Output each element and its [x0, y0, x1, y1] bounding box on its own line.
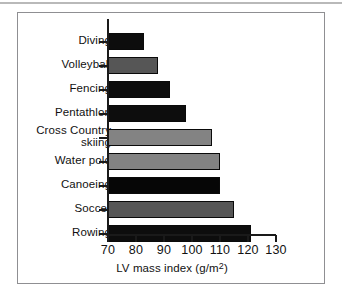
x-tick-label-70: 70 — [101, 243, 115, 257]
bar-pentathlon — [108, 105, 186, 122]
x-tick-label-90: 90 — [157, 243, 171, 257]
bar-water-polo — [108, 153, 220, 170]
category-tick-dash-water-polo — [99, 161, 107, 163]
chart-figure-frame: Diving Volleyball Fencing Pentathlon Cro… — [17, 12, 325, 284]
x-tick-mark — [247, 235, 249, 242]
x-tick-label-120: 120 — [237, 243, 258, 257]
top-divider-rule — [0, 2, 342, 4]
category-tick-dash-canoeing — [99, 185, 107, 187]
x-tick-mark — [135, 235, 137, 242]
x-tick-mark — [275, 235, 277, 242]
x-tick-mark — [107, 235, 109, 242]
x-tick-label-100: 100 — [181, 243, 202, 257]
x-axis-title-close: ) — [224, 262, 228, 274]
x-axis-title-main: LV mass index (g/m — [116, 262, 219, 274]
x-tick-label-130: 130 — [265, 243, 286, 257]
bar-soccer — [108, 201, 234, 218]
category-tick-dash-cross-country-skiing — [99, 137, 107, 139]
x-tick-mark — [191, 235, 193, 242]
category-tick-dash-volleyball — [99, 65, 107, 67]
bar-canoeing — [108, 177, 220, 194]
x-tick-mark — [219, 235, 221, 242]
x-tick-label-80: 80 — [129, 243, 143, 257]
category-tick-dash-diving — [99, 41, 107, 43]
bar-chart-plot-area: Diving Volleyball Fencing Pentathlon Cro… — [18, 13, 326, 285]
bar-diving — [108, 33, 144, 50]
category-tick-dash-pentathlon — [99, 113, 107, 115]
x-tick-label-110: 110 — [210, 243, 231, 257]
bar-cross-country-skiing — [108, 129, 212, 146]
x-tick-mark — [163, 235, 165, 242]
bar-volleyball — [108, 57, 158, 74]
category-tick-dash-soccer — [99, 209, 107, 211]
y-axis-line — [107, 19, 109, 235]
x-axis-title-superscript: 2 — [219, 261, 224, 271]
category-tick-dash-fencing — [99, 89, 107, 91]
bar-fencing — [108, 81, 170, 98]
x-axis-title: LV mass index (g/m2) — [18, 262, 326, 274]
category-tick-dash-rowing — [99, 233, 107, 235]
